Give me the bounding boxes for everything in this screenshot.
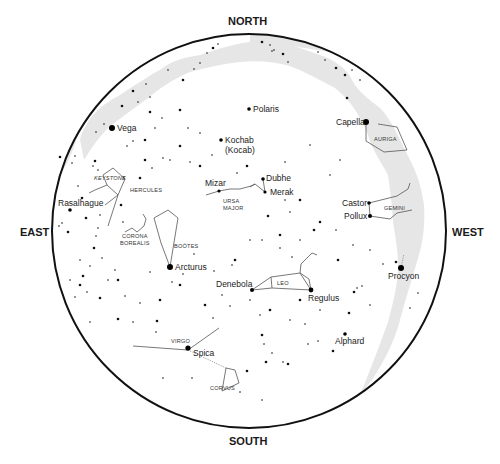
star-label-vega: Vega — [117, 123, 137, 133]
star-dot — [169, 159, 171, 161]
star-label-castor: Castor — [342, 198, 367, 208]
star-dot — [145, 83, 147, 85]
star-dot — [309, 144, 311, 146]
star-dot — [289, 211, 291, 213]
constellation-line — [108, 195, 118, 226]
star-dot — [348, 312, 351, 315]
star-dot — [335, 67, 338, 70]
constellation-label-hercules: HERCULES — [130, 187, 162, 193]
star-dot — [99, 297, 102, 300]
star-dot — [324, 59, 326, 61]
star-dot — [239, 391, 241, 393]
star-dot — [304, 323, 306, 325]
constellation-dashed-lines — [188, 254, 404, 368]
star-arcturus — [167, 264, 173, 270]
star-dot — [369, 304, 371, 306]
star-dot — [395, 261, 398, 264]
constellation-label-auriga: AURIGA — [374, 136, 397, 142]
star-label-kochab: Kochab — [225, 135, 254, 145]
star-dot — [107, 279, 109, 281]
star-dot — [122, 221, 124, 223]
star-dot — [212, 47, 215, 50]
star-dot — [344, 74, 347, 77]
star-dot — [95, 131, 97, 133]
star-dot — [284, 161, 286, 163]
star-dot — [351, 69, 353, 71]
star-dot — [212, 317, 214, 319]
star-dot — [120, 204, 123, 207]
star-label-pollux: Pollux — [344, 211, 368, 221]
compass-east-label: EAST — [20, 226, 49, 238]
star-dot — [206, 52, 208, 54]
star-dot — [317, 340, 319, 342]
star-dot — [317, 51, 319, 53]
star-dot — [261, 41, 264, 44]
star-kochab — [219, 138, 223, 142]
star-dot — [382, 263, 384, 265]
star-dot — [409, 307, 411, 309]
star-dot — [79, 284, 82, 287]
star-dot — [82, 275, 85, 278]
star-dot — [77, 185, 79, 187]
star-dot — [132, 321, 134, 323]
star-mizar — [217, 189, 220, 192]
star-dot — [269, 44, 271, 46]
star-label-arcturus: Arcturus — [175, 262, 207, 272]
star-label-denebola: Denebola — [216, 279, 253, 289]
star-dot — [261, 399, 263, 401]
star-label-regulus: Regulus — [308, 293, 339, 303]
star-label-procyon: Procyon — [388, 271, 419, 281]
constellation-line — [250, 184, 255, 187]
star-dot — [359, 79, 361, 81]
star-dot — [291, 256, 293, 258]
star-dot — [199, 132, 201, 134]
star-regulus — [309, 288, 314, 293]
star-dot — [271, 352, 273, 354]
star-dot — [179, 109, 182, 112]
star-dot — [171, 281, 173, 283]
star-dot — [329, 174, 331, 176]
star-dot — [289, 319, 291, 321]
star-dot — [117, 279, 120, 282]
star-dot — [114, 269, 116, 271]
star-dot — [67, 231, 70, 234]
star-dot — [132, 140, 134, 142]
star-dot — [231, 264, 233, 266]
star-dot — [299, 239, 301, 241]
star-dot — [313, 229, 316, 232]
star-dot — [193, 253, 195, 255]
star-dot — [229, 305, 231, 307]
star-dot — [337, 259, 340, 262]
sky-chart: PolarisVegaKochabCapellaDubheMerakMizarR… — [0, 0, 500, 464]
star-dot — [273, 49, 275, 51]
star-dot — [319, 309, 321, 311]
star-label-polaris: Polaris — [253, 104, 279, 114]
star-dot — [217, 43, 219, 45]
constellation-line — [133, 346, 188, 350]
star-dot — [261, 239, 263, 241]
constellation-line — [154, 210, 178, 267]
star-dot — [249, 239, 251, 241]
star-dot — [246, 370, 249, 373]
constellation-line — [206, 191, 219, 195]
star-dot — [346, 97, 349, 100]
star-dot — [161, 117, 163, 119]
constellation-line — [219, 179, 265, 192]
star-dot — [261, 334, 264, 337]
star-label-rasalhague: Rasalhague — [58, 198, 104, 208]
star-dot — [162, 377, 164, 379]
star-dot — [86, 291, 88, 293]
star-label-merak: Merak — [270, 187, 294, 197]
star-pollux — [368, 214, 372, 218]
star-dot — [151, 167, 153, 169]
star-dot — [93, 247, 96, 250]
star-dot — [356, 287, 358, 289]
star-dot — [74, 155, 76, 157]
star-dot — [162, 157, 164, 159]
star-dot — [94, 160, 97, 163]
constellation-line — [89, 185, 107, 193]
star-dot — [89, 265, 91, 267]
star-dot — [287, 61, 289, 63]
constellation-label-corvus: CORVUS — [210, 385, 235, 391]
star-dot — [179, 145, 182, 148]
